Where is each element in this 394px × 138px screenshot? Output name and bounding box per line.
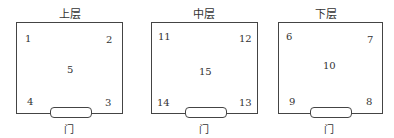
- position-label: 1: [25, 33, 31, 44]
- door-label: 门: [199, 121, 209, 136]
- position-label: 13: [239, 97, 252, 108]
- door-label: 门: [324, 121, 334, 136]
- position-label: 15: [199, 66, 212, 77]
- position-label: 6: [286, 31, 292, 42]
- door-label: 门: [64, 121, 74, 136]
- position-label: 4: [27, 96, 33, 107]
- position-label: 12: [239, 33, 252, 44]
- position-label: 10: [323, 60, 336, 71]
- position-label: 8: [366, 96, 372, 107]
- position-label: 2: [106, 34, 112, 45]
- position-label: 14: [157, 97, 170, 108]
- floor-title: 上层: [40, 5, 100, 21]
- door-icon: [50, 107, 92, 118]
- door-icon: [185, 107, 227, 118]
- floor-title: 中层: [174, 5, 234, 21]
- position-label: 3: [105, 97, 111, 108]
- position-label: 9: [289, 96, 295, 107]
- position-label: 5: [67, 64, 73, 75]
- position-label: 7: [367, 34, 373, 45]
- floor-title: 下层: [296, 5, 356, 21]
- door-icon: [310, 107, 352, 118]
- position-label: 11: [158, 31, 171, 42]
